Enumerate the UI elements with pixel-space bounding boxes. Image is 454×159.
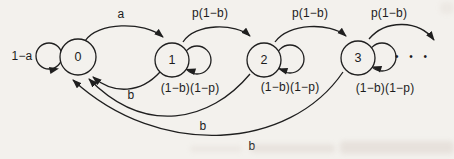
state-label-0: 0 [75,50,82,64]
ellipsis-dots: • • • [395,51,431,62]
label-self-loop-2: (1−b)(1−p) [261,80,320,94]
label-edge-0-1: a [118,7,125,21]
label-edge-3-0: b [249,139,256,153]
label-self-loop-0: 1−a [12,49,33,63]
state-label-1: 1 [169,53,176,67]
state-label-2: 2 [261,53,268,67]
label-edge-2-0: b [200,119,207,133]
state-label-3: 3 [355,51,362,65]
label-edge-2-3: p(1−b) [292,6,328,20]
state-diagram-canvas [0,0,454,159]
self-loop-arrowhead-state-0 [49,65,60,74]
label-edge-1-0: b [128,88,135,102]
label-self-loop-1: (1−b)(1−p) [161,81,220,95]
scanned-figure-page: 0 1 2 3 • • • 1−a a p(1−b) p(1−b) p(1−b)… [0,0,454,159]
edge-0-to-1-arc [85,26,163,41]
edge-2-to-3-arc [275,26,346,42]
label-self-loop-3: (1−b)(1−p) [356,81,415,95]
edge-3-to-next-arc [369,24,434,40]
edge-1-to-0-arc [93,72,160,89]
edge-1-to-2-arc [183,27,250,42]
label-edge-3-next: p(1−b) [371,6,407,20]
label-edge-1-2: p(1−b) [192,6,228,20]
self-loop-state-0 [36,43,62,69]
